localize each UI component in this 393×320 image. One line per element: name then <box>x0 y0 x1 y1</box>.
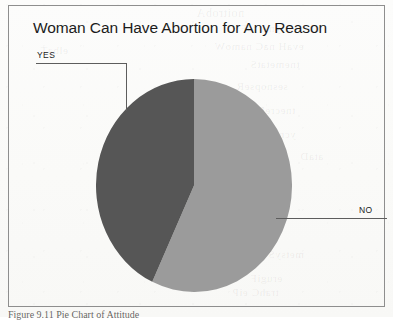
pie-label-no: NO <box>359 205 373 215</box>
no-leader-line <box>276 218 387 219</box>
yes-leader-line-vertical <box>126 63 127 111</box>
figure-caption: Figure 9.11 Pie Chart of Attitude <box>8 309 139 320</box>
chart-title: Woman Can Have Abortion for Any Reason <box>33 19 327 37</box>
yes-leader-line-horizontal <box>36 63 127 64</box>
pie-label-yes: YES <box>37 50 55 60</box>
figure-frame: Woman Can Have Abortion for Any Reason Y… <box>8 5 385 307</box>
